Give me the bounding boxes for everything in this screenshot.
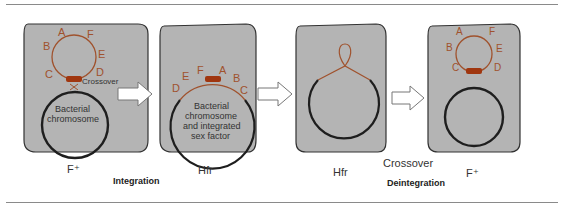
chromosome-text: and integrated [183,121,241,131]
gene-label: F [197,64,204,76]
f-integration-site [66,76,82,82]
panel-caption: F⁺ [466,167,479,180]
chromosome-text: Bacterial [194,101,229,111]
diagram-canvas [0,0,564,206]
gene-label: D [172,82,180,94]
chromosome-text: chromosome [47,114,99,124]
chromosome-text: chromosome [185,111,237,121]
gene-label: F [87,28,94,40]
arrow-right-icon [258,82,292,106]
gene-label: C [452,62,459,73]
arrow-right-icon [392,86,424,110]
gene-label: C [240,84,248,96]
transition-label-top: Crossover [383,157,433,169]
gene-label: E [182,70,189,82]
cell-hfr-1 [160,24,256,169]
panel-caption: Hfr [198,164,213,176]
panel-caption: Hfr [333,166,348,178]
cell-hfr-2 [296,24,386,152]
panel-caption: F⁺ [67,163,80,176]
transition-label: Deintegration [387,178,445,188]
gene-label: A [456,26,463,37]
gene-label: F [489,26,495,37]
gene-label: E [496,43,503,54]
gene-label: D [494,62,501,73]
gene-label: A [219,64,226,76]
gene-label: B [233,72,240,84]
gene-label: A [58,26,65,38]
chromosome-text: sex factor [191,131,230,141]
gene-label: C [45,68,53,80]
chromosome-text: Bacterial [55,104,90,114]
crossover-label: Crossover [82,77,118,86]
gene-label: B [446,42,453,53]
transition-label: Integration [113,176,160,186]
gene-label: E [98,48,105,60]
gene-label: B [43,40,50,52]
cell-f-plus-2 [428,24,520,152]
